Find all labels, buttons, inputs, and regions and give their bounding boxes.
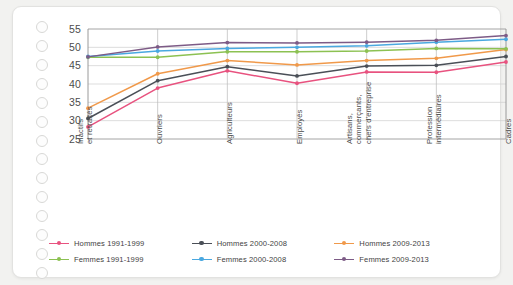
series-point	[156, 45, 160, 49]
legend-item-label: Femmes 2000-2008	[217, 255, 287, 264]
series-point	[225, 47, 229, 51]
series-point	[156, 55, 160, 59]
punch-hole	[36, 267, 48, 279]
series-point	[365, 59, 369, 63]
series-point	[295, 41, 299, 45]
x-tick-label: Agriculteurs	[225, 102, 234, 144]
series-point	[225, 50, 229, 54]
y-tick-label: 55	[59, 23, 81, 35]
series-point	[504, 60, 508, 64]
x-tick-label: Ouvriers	[155, 114, 164, 144]
series-point	[365, 64, 369, 68]
x-tick-label: Inactifs et retraités	[76, 106, 95, 144]
x-tick-label: Cadres	[504, 119, 513, 144]
legend-color-swatch	[192, 255, 212, 264]
series-point	[365, 49, 369, 53]
x-tick-label: Employés	[295, 109, 304, 144]
punch-hole	[36, 40, 48, 52]
series-point	[295, 74, 299, 78]
legend-item-label: Femmes 2009-2013	[359, 255, 429, 264]
series-point	[434, 38, 438, 42]
legend-item[interactable]: Femmes 2000-2008	[192, 251, 331, 267]
legend-color-swatch	[334, 239, 354, 248]
series-point	[225, 69, 229, 73]
chart-legend: Hommes 1991-1999Hommes 2000-2008Hommes 2…	[49, 235, 473, 267]
series-point	[86, 55, 90, 59]
series-point	[365, 40, 369, 44]
legend-item[interactable]: Femmes 2009-2013	[334, 251, 473, 267]
legend-item[interactable]: Hommes 1991-1999	[49, 235, 188, 251]
series-point	[434, 63, 438, 67]
y-tick-label: 40	[59, 78, 81, 90]
punch-hole	[36, 116, 48, 128]
series-point	[504, 47, 508, 51]
legend-item[interactable]: Femmes 1991-1999	[49, 251, 188, 267]
series-point	[504, 34, 508, 38]
punch-hole	[36, 248, 48, 260]
legend-color-swatch	[334, 255, 354, 264]
legend-item-label: Hommes 1991-1999	[74, 239, 144, 248]
legend-item-label: Hommes 2009-2013	[359, 239, 429, 248]
punch-hole	[36, 78, 48, 90]
series-point	[225, 65, 229, 69]
legend-color-swatch	[49, 255, 69, 264]
legend-item-label: Hommes 2000-2008	[217, 239, 287, 248]
series-point	[295, 45, 299, 49]
punch-hole	[36, 210, 48, 222]
legend-item[interactable]: Hommes 2009-2013	[334, 235, 473, 251]
legend-item[interactable]: Hommes 2000-2008	[192, 235, 331, 251]
legend-color-swatch	[49, 239, 69, 248]
series-point	[434, 47, 438, 51]
punch-hole	[36, 191, 48, 203]
punch-hole	[36, 172, 48, 184]
series-point	[504, 55, 508, 59]
series-point	[504, 37, 508, 41]
y-tick-label: 50	[59, 41, 81, 53]
series-point	[156, 72, 160, 76]
series-point	[225, 59, 229, 63]
series-point	[295, 63, 299, 67]
legend-color-swatch	[192, 239, 212, 248]
series-point	[295, 50, 299, 54]
series-point	[434, 70, 438, 74]
series-point	[225, 41, 229, 45]
x-tick-label: Artisans, commerçants, chefs d'entrepris…	[345, 82, 373, 144]
series-point	[156, 79, 160, 83]
y-tick-label: 45	[59, 59, 81, 71]
series-point	[365, 70, 369, 74]
punch-hole	[36, 59, 48, 71]
series-point	[365, 44, 369, 48]
punch-hole	[36, 153, 48, 165]
x-tick-label: Profession intermédiaires	[425, 94, 444, 144]
series-point	[156, 49, 160, 53]
notebook-page-card: 25303540455055 Inactifs et retraitésOuvr…	[12, 6, 501, 278]
series-point	[156, 86, 160, 90]
punch-hole	[36, 229, 48, 241]
legend-item-label: Femmes 1991-1999	[74, 255, 144, 264]
punch-hole	[36, 97, 48, 109]
punch-hole	[36, 135, 48, 147]
series-point	[295, 81, 299, 85]
series-point	[434, 56, 438, 60]
punch-hole	[36, 21, 48, 33]
